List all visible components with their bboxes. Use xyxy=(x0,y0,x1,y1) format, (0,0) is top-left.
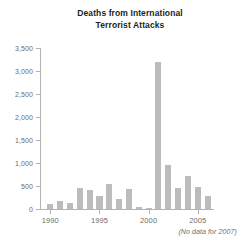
x-axis-line xyxy=(40,209,214,210)
y-axis-tick-label: 3,500 xyxy=(0,45,33,52)
no-data-annotation: (No data for 2007) xyxy=(178,228,237,235)
bar-1999 xyxy=(136,207,142,209)
x-axis-tick-label: 1995 xyxy=(79,216,119,225)
bar-2001 xyxy=(155,62,161,209)
x-axis-tick xyxy=(149,210,150,214)
chart-title-line-2: Terrorist Attacks xyxy=(40,20,220,32)
y-axis-tick-label: 2,500 xyxy=(0,91,33,98)
y-axis-tick xyxy=(36,209,40,210)
x-axis-tick xyxy=(50,210,51,214)
bar-2003 xyxy=(175,188,181,209)
x-axis-tick-label: 2000 xyxy=(129,216,169,225)
bar-1991 xyxy=(57,201,63,209)
bar-2005 xyxy=(195,187,201,209)
bar-1992 xyxy=(67,203,73,209)
y-axis-tick-label: 500 xyxy=(0,183,33,190)
y-axis-tick-label: 3,000 xyxy=(0,68,33,75)
plot-area xyxy=(40,48,213,209)
bar-1997 xyxy=(116,199,122,209)
x-axis-tick-label: 2005 xyxy=(178,216,218,225)
bar-2004 xyxy=(185,176,191,209)
x-axis-tick xyxy=(198,210,199,214)
bar-2006 xyxy=(205,196,211,209)
chart-title-line-1: Deaths from International xyxy=(40,8,220,20)
y-axis-tick-label: 1,500 xyxy=(0,137,33,144)
bar-1993 xyxy=(77,188,83,209)
bar-1990 xyxy=(47,204,53,209)
chart-figure: Deaths from International Terrorist Atta… xyxy=(0,0,245,248)
bar-2002 xyxy=(165,165,171,209)
chart-title: Deaths from International Terrorist Atta… xyxy=(40,8,220,31)
bar-1995 xyxy=(96,196,102,209)
y-axis-tick-label: 1,000 xyxy=(0,160,33,167)
x-axis-tick-label: 1990 xyxy=(30,216,70,225)
y-axis-tick-label: 2,000 xyxy=(0,114,33,121)
bar-2000 xyxy=(146,208,152,209)
bar-1996 xyxy=(106,184,112,209)
x-axis-tick xyxy=(99,210,100,214)
y-axis-tick-label: 0 xyxy=(0,206,33,213)
bar-1998 xyxy=(126,189,132,209)
bar-1994 xyxy=(87,190,93,209)
